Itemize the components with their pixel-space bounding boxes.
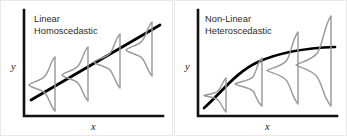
statistics-figure: Linear Homoscedastic y x [0,0,347,136]
panel-left-x-axis-label: x [90,121,96,132]
distribution-right-1 [204,78,226,112]
distribution-right-2 [235,58,262,106]
trend-curve-right [204,47,335,108]
distribution-left-4 [126,22,152,76]
panel-left-caption-line2: Homoscedastic [34,26,98,36]
panel-nonlinear-heteroscedastic: Non-Linear Heteroscedastic y x [174,0,347,136]
distribution-right-3 [267,32,298,104]
panel-left-y-axis-label: y [10,61,16,72]
panel-linear-homoscedastic: Linear Homoscedastic y x [0,0,173,136]
panel-right-y-axis-label: y [184,61,190,72]
distribution-right-4 [296,16,331,106]
panel-left-caption-line1: Linear [34,14,60,24]
distribution-left-1 [29,57,55,111]
panel-right-x-axis-label: x [264,121,270,132]
panel-right-caption-line2: Heteroscedastic [205,26,272,36]
panel-right-caption-line1: Non-Linear [205,14,251,24]
